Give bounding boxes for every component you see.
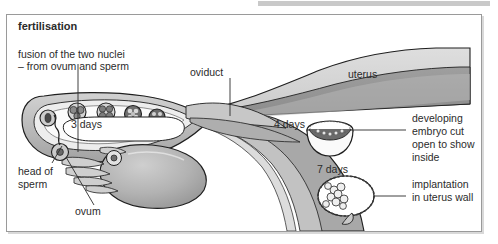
label-head-of-sperm-line1: head of (18, 165, 53, 178)
ovarian-follicle (107, 151, 122, 166)
label-developing-embryo-line2: embryo cut (412, 125, 464, 138)
label-developing-embryo-line3: open to show (412, 138, 474, 151)
label-implantation-line2: in uterus wall (412, 191, 473, 204)
figure-title: fertilisation (18, 20, 77, 33)
cell-stage-zygote (40, 110, 56, 126)
label-developing-embryo-line1: developing (412, 112, 463, 125)
marker-three-days: 3 days (71, 118, 102, 131)
label-developing-embryo-line4: inside (412, 151, 439, 164)
label-fusion-line2: – from ovum and sperm (18, 60, 129, 73)
label-ovum: ovum (75, 205, 101, 218)
label-oviduct: oviduct (190, 66, 223, 79)
label-implantation-line1: implantation (412, 178, 469, 191)
label-fusion-line1: fusion of the two nuclei (18, 48, 125, 61)
label-uterus: uterus (348, 68, 377, 81)
label-head-of-sperm-line2: sperm (18, 178, 47, 191)
figure-stage: fertilisation fusion of the two nuclei –… (0, 0, 498, 244)
marker-four-days: 4 days (274, 118, 305, 131)
marker-seven-days: 7 days (317, 163, 348, 176)
